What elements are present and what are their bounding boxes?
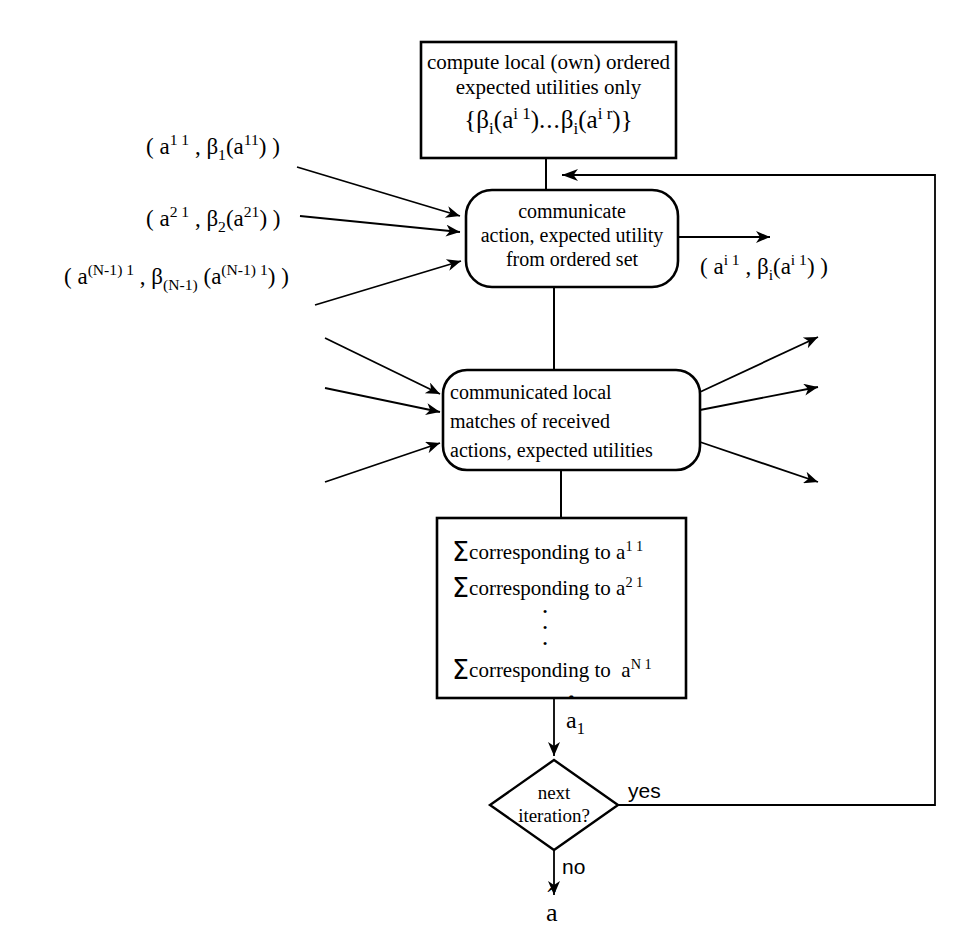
sum-row-3: Σcorresponding to aN 1 [452,654,652,685]
a-hat-1-label: ˆa1 [566,706,585,734]
a-hat-final-label: ˆa [546,898,558,929]
output-sup: i 1 [724,251,740,268]
communicated-matches-box-text: communicated local matches of received a… [450,378,693,465]
edge-match-output-2 [700,387,818,410]
formula-arg2-open: (a [578,106,597,133]
edge-match-output-1 [700,337,818,392]
sigma-symbol: Σ [452,654,469,685]
match-box-line2: matches of received [450,407,693,436]
edge-match-output-3 [700,442,818,482]
sum-row-1: Σcorresponding to a1 1 [452,536,643,567]
formula-arg1-close: ) [531,106,539,133]
match-box-line3: actions, expected utilities [450,436,693,465]
input2-arg-open: (a [226,206,244,231]
output-open: ( a [700,254,724,279]
output-arg-open: (a [773,254,791,279]
compute-box-line2: expected utilities only [421,75,676,100]
input1-sup: 1 1 [170,131,190,148]
sigma-symbol: Σ [452,536,469,567]
output-close: ) [815,254,828,279]
input2-arg-close: ) [259,206,267,231]
input2-comma: , [189,206,206,231]
a-hat-final-glyph: ˆa [546,898,558,929]
output-beta: β [757,254,769,279]
formula-arg2-sup: i r [598,104,613,123]
input2-beta: β [206,206,218,231]
edge-match-input-2 [325,388,440,412]
output-pair-label: ( ai 1 , βi(ai 1) ) [700,253,828,280]
match-box-line1: communicated local [450,378,693,407]
sum-row-1-base: a [616,540,625,564]
input1-close: ) [267,134,280,159]
yes-label: yes [628,779,661,804]
decision-line2: iteration? [490,805,618,828]
output-arg-sup: i 1 [791,251,807,268]
input2-arg-sup: 21 [244,203,260,220]
flowchart-canvas: compute local (own) ordered expected uti… [0,0,978,951]
edge-input3-to-communicate [315,261,461,305]
a-hat-1-glyph: ˆa [566,706,577,734]
communicate-box-line3: from ordered set [466,247,678,271]
edge-input2-to-communicate [300,216,460,232]
formula-open-brace: { [464,106,476,133]
output-comma: , [740,254,757,279]
input1-comma: , [189,134,206,159]
sum-row-1-text: corresponding to [469,540,611,564]
next-iteration-decision-text: next iteration? [490,782,618,828]
sum-row-3-sup: N 1 [631,656,652,672]
formula-beta1: β [476,106,489,133]
sum-row-3-text: corresponding to [469,658,611,682]
vertical-ellipsis: · · · [530,604,560,652]
sum-row-2-text: corresponding to [469,576,611,600]
input1-beta: β [206,134,218,159]
formula-ellipsis: ... [539,106,561,133]
input3-open: ( a [64,264,88,289]
communicate-box-line1: communicate [466,199,678,223]
input-pair-1-label: ( a1 1 , β1(a11) ) [146,133,280,160]
formula-beta2: β [561,106,574,133]
input3-arg-sup: (N-1) 1 [221,261,267,278]
input1-arg-sup: 11 [244,131,259,148]
sigma-symbol: Σ [452,572,469,603]
communicate-action-box-text: communicate action, expected utility fro… [466,199,678,271]
input1-arg-open: (a [226,134,244,159]
input1-beta-sub: 1 [218,146,226,163]
input3-comma: , [134,264,151,289]
edge-input1-to-communicate [297,167,460,216]
decision-line1: next [490,782,618,805]
sum-row-2-base: a [616,576,625,600]
communicate-box-line2: action, expected utility [466,223,678,247]
input3-sup: (N-1) 1 [88,261,134,278]
sum-row-3-base: a [621,658,630,682]
sum-row-2-sup: 2 1 [625,574,643,590]
formula-arg1-sup: i 1 [513,104,530,123]
input3-arg-open: (a [198,264,222,289]
input2-sup: 2 1 [170,203,190,220]
edge-match-input-3 [325,443,440,482]
a-hat-1-sub: 1 [577,719,585,738]
input-pair-2-label: ( a2 1 , β2(a21) ) [146,205,281,232]
input2-beta-sub: 2 [218,218,226,235]
output-arg-close: ) [807,254,815,279]
input3-beta-sub: (N-1) [163,276,198,293]
compute-box-formula: {βi(ai 1)...βi(ai r)} [421,105,676,135]
input2-open: ( a [146,206,170,231]
input3-close: ) [275,264,288,289]
compute-box-line1: compute local (own) ordered [421,50,676,75]
input-pair-3-label: ( a(N-1) 1 , β(N-1) (a(N-1) 1) ) [64,263,289,290]
edge-match-input-1 [325,338,440,394]
input3-beta: β [151,264,163,289]
compute-local-box-text: compute local (own) ordered expected uti… [421,50,676,135]
formula-close-brace: } [621,106,633,133]
hat-accent: ˆ [567,692,575,719]
hat-accent: ˆ [547,883,555,912]
formula-arg1-open: (a [494,106,513,133]
input1-arg-close: ) [259,134,267,159]
formula-arg2-close: ) [612,106,620,133]
input2-close: ) [267,206,280,231]
no-label: no [562,855,585,880]
sum-row-1-sup: 1 1 [625,538,643,554]
vertical-ellipsis-dot: · [530,636,560,652]
input1-open: ( a [146,134,170,159]
